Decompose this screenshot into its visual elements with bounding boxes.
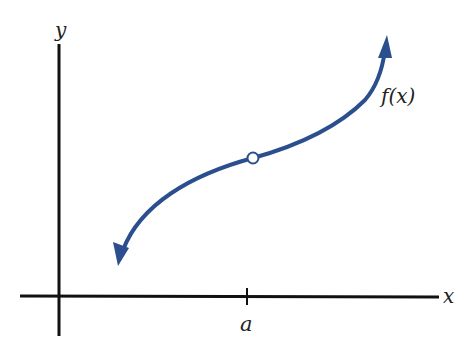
x-axis bbox=[20, 296, 439, 297]
curve-f-of-x bbox=[123, 50, 385, 250]
graph-canvas bbox=[0, 0, 476, 348]
tick-label-a: a bbox=[240, 314, 253, 335]
curve-label: f(x) bbox=[381, 86, 415, 106]
open-point-icon bbox=[248, 153, 259, 164]
arrowhead-up-icon bbox=[378, 35, 392, 58]
x-axis-label: x bbox=[443, 286, 454, 306]
y-axis-label: y bbox=[55, 20, 66, 40]
